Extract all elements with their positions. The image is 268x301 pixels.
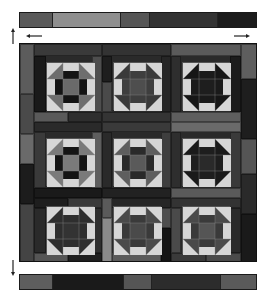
block-pattern-icon: [47, 139, 95, 187]
sashing-piece: [161, 208, 171, 228]
sashing-piece: [34, 44, 102, 56]
sashing-piece: [230, 132, 241, 188]
sashing-piece: [171, 132, 181, 188]
sashing-piece: [34, 56, 46, 112]
sashing-piece: [102, 198, 112, 218]
bottom-strip-segment: [20, 275, 53, 289]
sashing-piece: [20, 44, 34, 94]
sashing-piece: [171, 122, 241, 132]
block-pattern-icon: [47, 63, 95, 111]
bottom-strip-segment: [53, 275, 124, 289]
bottom-border-strip: [19, 274, 257, 290]
sashing-piece: [171, 112, 241, 122]
churn-dash-block-r1c3: [182, 62, 230, 110]
sashing-piece: [171, 188, 241, 198]
sashing-piece: [230, 56, 241, 112]
arrow-right-icon: [234, 33, 250, 39]
churn-dash-block-r2c3: [182, 138, 230, 186]
arrow-down-icon: [10, 260, 16, 276]
top-strip-segment: [20, 13, 53, 27]
sashing-piece: [20, 134, 34, 164]
block-pattern-icon: [47, 207, 95, 255]
churn-dash-block-r1c1: [46, 62, 94, 110]
top-strip-segment: [53, 13, 121, 27]
sashing-piece: [102, 218, 112, 262]
churn-dash-block-r2c2: [113, 138, 161, 186]
sashing-piece: [241, 214, 257, 262]
sashing-piece: [34, 122, 102, 132]
arrow-up-icon: [10, 28, 16, 44]
churn-dash-block-r1c2: [113, 62, 161, 110]
bottom-strip-segment: [124, 275, 152, 289]
sashing-piece: [230, 208, 241, 253]
sashing-piece: [102, 56, 112, 82]
sashing-piece: [171, 56, 181, 112]
block-pattern-icon: [183, 207, 231, 255]
top-strip-segment: [150, 13, 218, 27]
sashing-piece: [34, 132, 46, 188]
sashing-piece: [161, 228, 171, 262]
sashing-piece: [20, 94, 34, 134]
sashing-piece: [171, 44, 241, 56]
block-pattern-icon: [114, 139, 162, 187]
sashing-piece: [68, 112, 102, 122]
block-pattern-icon: [183, 63, 231, 111]
sashing-piece: [241, 174, 257, 214]
sashing-piece: [161, 56, 171, 112]
sashing-piece: [34, 208, 46, 253]
block-pattern-icon: [114, 207, 162, 255]
churn-dash-block-r2c1: [46, 138, 94, 186]
quilt-top: [19, 43, 257, 262]
arrow-left-icon: [26, 33, 42, 39]
sashing-piece: [102, 132, 112, 188]
sashing-piece: [34, 112, 68, 122]
top-strip-segment: [218, 13, 256, 27]
sashing-piece: [241, 139, 257, 174]
sashing-piece: [171, 208, 181, 253]
top-strip-segment: [121, 13, 149, 27]
sashing-piece: [34, 188, 102, 198]
churn-dash-block-r3c2: [113, 206, 161, 254]
top-border-strip: [19, 12, 257, 28]
sashing-piece: [102, 188, 171, 198]
bottom-strip-segment: [221, 275, 256, 289]
churn-dash-block-r3c3: [182, 206, 230, 254]
sashing-piece: [20, 164, 34, 204]
sashing-piece: [20, 204, 34, 262]
sashing-piece: [102, 44, 171, 56]
sashing-piece: [241, 79, 257, 139]
sashing-piece: [241, 44, 257, 79]
churn-dash-block-r3c1: [46, 206, 94, 254]
sashing-piece: [102, 82, 112, 112]
block-pattern-icon: [183, 139, 231, 187]
sashing-piece: [102, 122, 171, 132]
sashing-piece: [102, 112, 171, 122]
bottom-strip-segment: [152, 275, 220, 289]
block-pattern-icon: [114, 63, 162, 111]
sashing-piece: [161, 132, 171, 188]
